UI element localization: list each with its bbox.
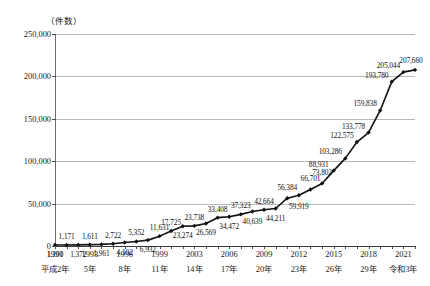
x-axis-tick-mark bbox=[334, 246, 335, 249]
x-axis-tick-mark bbox=[299, 246, 300, 249]
y-axis-tick-mark bbox=[52, 204, 56, 205]
x-axis-year-label: 2006 bbox=[221, 250, 238, 259]
data-point-label: 193,780 bbox=[365, 70, 388, 79]
chart-page: （件数） 050,000100,000150,000200,000250,000… bbox=[0, 0, 430, 286]
data-point-label: 44,211 bbox=[266, 213, 285, 222]
x-axis-era-label: 29年 bbox=[360, 262, 376, 274]
x-axis-tick-mark bbox=[171, 246, 172, 249]
x-axis-tick-mark bbox=[229, 246, 230, 249]
x-axis-year-label: 2003 bbox=[186, 250, 203, 259]
x-axis-tick-mark bbox=[345, 246, 346, 249]
x-axis-tick-mark bbox=[67, 246, 68, 249]
data-point-label: 1,171 bbox=[59, 232, 75, 241]
data-point-label: 4,102 bbox=[117, 247, 133, 256]
data-point-marker bbox=[146, 238, 150, 242]
data-point-label: 1,101 bbox=[47, 250, 63, 259]
x-axis-year-label: 2015 bbox=[325, 250, 342, 259]
data-point-label: 33,408 bbox=[208, 204, 228, 213]
x-axis-tick-mark bbox=[90, 246, 91, 249]
data-point-label: 59,919 bbox=[289, 202, 309, 211]
x-axis-year-label: 2009 bbox=[256, 250, 273, 259]
data-point-label: 207,660 bbox=[399, 55, 422, 64]
y-axis-tick-mark bbox=[52, 161, 56, 162]
data-point-label: 40,639 bbox=[243, 216, 263, 225]
x-axis-tick-mark bbox=[183, 246, 184, 249]
data-point-label: 1,611 bbox=[82, 231, 98, 240]
data-point-label: 2,722 bbox=[105, 230, 121, 239]
x-axis-tick-mark bbox=[276, 246, 277, 249]
series-line bbox=[0, 0, 430, 286]
x-axis-era-label: 5年 bbox=[84, 262, 96, 274]
data-point-marker bbox=[227, 215, 231, 219]
x-axis-tick-mark bbox=[194, 246, 195, 249]
data-point-marker bbox=[262, 208, 266, 212]
x-axis-tick-mark bbox=[206, 246, 207, 249]
data-point-label: 17,725 bbox=[161, 217, 181, 226]
x-axis-tick-mark bbox=[113, 246, 114, 249]
x-axis-era-label: 8年 bbox=[119, 262, 131, 274]
x-axis-tick-mark bbox=[218, 246, 219, 249]
x-axis-year-label: 2021 bbox=[395, 250, 412, 259]
data-point-label: 5,352 bbox=[128, 228, 144, 237]
data-point-label: 42,664 bbox=[254, 196, 274, 205]
data-point-label: 26,569 bbox=[196, 228, 216, 237]
x-axis-tick-mark bbox=[160, 246, 161, 249]
data-point-label: 133,778 bbox=[342, 121, 365, 130]
data-point-label: 1,961 bbox=[93, 249, 109, 258]
x-axis-tick-mark bbox=[310, 246, 311, 249]
x-axis-tick-mark bbox=[136, 246, 137, 249]
x-axis-tick-mark bbox=[241, 246, 242, 249]
data-point-label: 103,286 bbox=[319, 147, 342, 156]
data-point-label: 6,932 bbox=[140, 245, 156, 254]
data-point-label: 122,575 bbox=[330, 131, 353, 140]
x-axis-tick-mark bbox=[403, 246, 404, 249]
x-axis-tick-mark bbox=[357, 246, 358, 249]
x-axis-era-label: 26年 bbox=[326, 262, 342, 274]
x-axis-tick-mark bbox=[264, 246, 265, 249]
data-point-label: 205,044 bbox=[377, 61, 400, 70]
x-axis-era-label: 20年 bbox=[256, 262, 272, 274]
x-axis-tick-mark bbox=[322, 246, 323, 249]
x-axis-tick-mark bbox=[287, 246, 288, 249]
x-axis-era-label: 23年 bbox=[291, 262, 307, 274]
x-axis-year-label: 2018 bbox=[360, 250, 377, 259]
x-axis-tick-mark bbox=[380, 246, 381, 249]
data-point-label: 73,802 bbox=[312, 168, 332, 177]
x-axis-era-label: 14年 bbox=[186, 262, 202, 274]
x-axis-tick-mark bbox=[369, 246, 370, 249]
x-axis-era-label: 平成2年 bbox=[41, 262, 69, 274]
data-point-label: 1,372 bbox=[70, 249, 86, 258]
x-axis-era-label: 令和3年 bbox=[389, 262, 417, 274]
data-point-marker bbox=[250, 209, 254, 213]
x-axis-tick-mark bbox=[392, 246, 393, 249]
y-axis-tick-mark bbox=[52, 76, 56, 77]
y-axis-tick-mark bbox=[52, 34, 56, 35]
x-axis-era-label: 11年 bbox=[151, 262, 167, 274]
data-point-label: 37,323 bbox=[231, 201, 251, 210]
x-axis-tick-mark bbox=[415, 246, 416, 249]
data-point-marker bbox=[413, 68, 417, 72]
x-axis-era-label: 17年 bbox=[221, 262, 237, 274]
data-point-label: 88,931 bbox=[309, 159, 329, 168]
x-axis-tick-mark bbox=[252, 246, 253, 249]
data-point-label: 56,384 bbox=[277, 183, 297, 192]
data-point-label: 23,738 bbox=[184, 212, 204, 221]
data-point-marker bbox=[134, 239, 138, 243]
data-point-label: 159,838 bbox=[353, 99, 376, 108]
data-point-label: 23,274 bbox=[173, 231, 193, 240]
y-axis-tick-mark bbox=[52, 119, 56, 120]
x-axis-tick-mark bbox=[55, 246, 56, 249]
x-axis-year-label: 2012 bbox=[290, 250, 307, 259]
data-point-marker bbox=[122, 240, 126, 244]
data-line bbox=[55, 70, 415, 245]
data-point-label: 34,472 bbox=[219, 221, 239, 230]
